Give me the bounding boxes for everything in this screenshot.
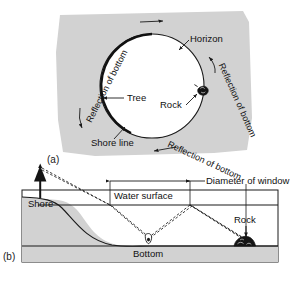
label-shore: Shore [28, 199, 53, 209]
label-rock-b: Rock [234, 215, 256, 225]
figure-canvas [0, 0, 300, 284]
submerged-object [145, 234, 151, 244]
figure-refraction-window: Horizon Tree Rock Shore line Reflection … [0, 0, 300, 284]
panel-tag-a: (a) [47, 155, 59, 165]
label-horizon: Horizon [190, 34, 223, 44]
label-tree-a: Tree [127, 93, 146, 103]
label-rock-a: Rock [160, 100, 182, 110]
label-bottom: Bottom [133, 249, 163, 259]
label-diameter-of-window: Diameter of window [206, 176, 289, 186]
panel-tag-b: (b) [3, 252, 15, 262]
label-shore-line: Shore line [91, 138, 134, 148]
label-water-surface: Water surface [114, 191, 173, 201]
